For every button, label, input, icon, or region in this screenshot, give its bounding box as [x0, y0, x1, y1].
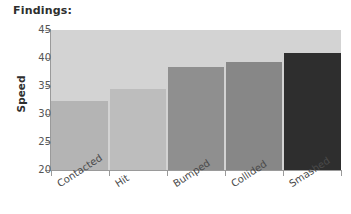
bar-chart: Findings: 202530354045 Speed ContactedHi… [0, 0, 351, 214]
x-tick-mark [341, 171, 342, 176]
x-tick-label: Collided [229, 158, 269, 189]
x-tick-mark [109, 171, 110, 176]
x-tick-label: Contacted [55, 152, 104, 189]
x-tick-mark [167, 171, 168, 176]
x-tick-label: Hit [113, 172, 131, 189]
x-tick-mark [51, 171, 52, 176]
x-tick-mark [283, 171, 284, 176]
x-tick-label: Bumped [171, 157, 212, 189]
x-axis-ticks: ContactedHitBumpedCollidedSmashed [0, 0, 351, 214]
x-tick-mark [225, 171, 226, 176]
x-tick-label: Smashed [287, 155, 332, 189]
